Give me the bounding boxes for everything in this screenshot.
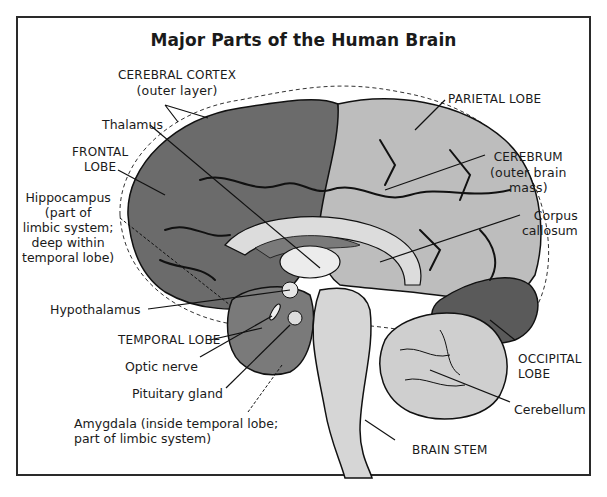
label-thalamus: Thalamus — [102, 117, 163, 132]
cerebellum — [380, 313, 507, 419]
thalamus — [280, 246, 340, 278]
label-cerebellum: Cerebellum — [514, 402, 586, 417]
label-hippocampus-line3: limbic system; — [22, 220, 114, 235]
label-hypothalamus: Hypothalamus — [50, 302, 141, 317]
label-cerebrum-line3: mass) — [490, 180, 567, 195]
label-brain-stem: BRAIN STEM — [412, 443, 488, 458]
label-frontal-lobe: FRONTAL LOBE — [72, 145, 128, 175]
label-amygdala-line2: part of limbic system) — [74, 431, 278, 446]
label-optic-nerve: Optic nerve — [125, 359, 198, 374]
label-amygdala-line1: Amygdala (inside temporal lobe; — [74, 416, 278, 431]
temporal-lobe — [228, 287, 314, 375]
label-amygdala: Amygdala (inside temporal lobe; part of … — [74, 416, 278, 446]
label-hippocampus-line5: temporal lobe) — [22, 250, 114, 265]
label-cerebrum-line1: CEREBRUM — [490, 150, 567, 165]
label-cerebral-cortex-line1: CEREBRAL CORTEX — [118, 68, 236, 83]
label-corpus-callosum: Corpus callosum — [522, 208, 578, 238]
label-cerebral-cortex: CEREBRAL CORTEX (outer layer) — [118, 68, 236, 98]
brain-stem — [313, 288, 372, 478]
label-hippocampus-line2: (part of — [22, 205, 114, 220]
label-occipital-lobe-line1: OCCIPITAL — [518, 352, 582, 367]
label-hippocampus: Hippocampus (part of limbic system; deep… — [22, 190, 114, 265]
label-cerebrum: CEREBRUM (outer brain mass) — [490, 150, 567, 195]
label-hippocampus-line1: Hippocampus — [22, 190, 114, 205]
label-cerebral-cortex-line2: (outer layer) — [118, 83, 236, 98]
label-frontal-lobe-line2: LOBE — [72, 160, 128, 175]
label-pituitary-gland: Pituitary gland — [132, 386, 223, 401]
label-cerebrum-line2: (outer brain — [490, 165, 567, 180]
parietal-lobe — [318, 99, 541, 302]
label-corpus-callosum-line1: Corpus — [522, 208, 578, 223]
label-corpus-callosum-line2: callosum — [522, 223, 578, 238]
label-parietal-lobe: PARIETAL LOBE — [448, 92, 541, 107]
diagram-title: Major Parts of the Human Brain — [0, 30, 607, 50]
label-hippocampus-line4: deep within — [22, 235, 114, 250]
label-occipital-lobe: OCCIPITAL LOBE — [518, 352, 582, 382]
label-frontal-lobe-line1: FRONTAL — [72, 145, 128, 160]
label-occipital-lobe-line2: LOBE — [518, 367, 582, 382]
pituitary-gland — [288, 311, 302, 325]
label-temporal-lobe: TEMPORAL LOBE — [118, 333, 221, 348]
